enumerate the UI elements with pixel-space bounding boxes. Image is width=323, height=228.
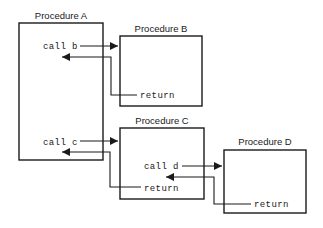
procedure-a-group: Procedure A call b call c	[19, 10, 103, 160]
call-b-arrowhead-icon	[110, 42, 118, 50]
procedure-c-group: Procedure C call d return	[120, 115, 204, 199]
procedure-c-title: Procedure C	[135, 115, 188, 126]
call-c-arrowhead-icon	[110, 137, 118, 145]
statement-call-b: call b	[43, 42, 78, 52]
procedure-a-title: Procedure A	[35, 10, 88, 21]
procedure-flow-diagram: Procedure A call b call c Procedure B re…	[0, 0, 323, 228]
diagram-canvas: Procedure A call b call c Procedure B re…	[0, 0, 323, 228]
statement-return-d: return	[254, 200, 289, 210]
statement-return-c: return	[144, 184, 179, 194]
procedure-d-title: Procedure D	[238, 136, 291, 147]
statement-call-d: call d	[144, 162, 179, 172]
procedure-b-group: Procedure B return	[120, 23, 202, 106]
procedure-d-group: Procedure D return	[224, 136, 306, 213]
procedure-b-title: Procedure B	[135, 23, 188, 34]
statement-call-c: call c	[43, 138, 78, 148]
call-d-arrowhead-icon	[214, 162, 222, 170]
statement-return-b: return	[140, 91, 175, 101]
